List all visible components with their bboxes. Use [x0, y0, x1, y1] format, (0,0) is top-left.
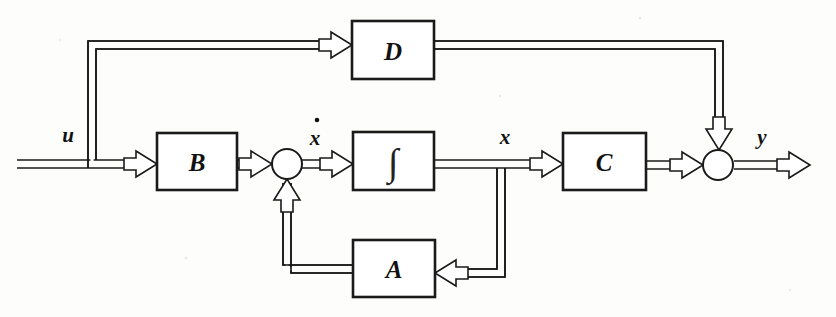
- block-diagram-canvas: D B ∫ C A u x x y: [0, 0, 836, 317]
- block-d-label: D: [383, 38, 402, 65]
- arrowhead-into-sum-output-left: [670, 152, 703, 178]
- arrowhead-into-b: [124, 151, 157, 177]
- block-b-label: B: [188, 149, 206, 176]
- arrowhead-into-sum-state-bottom: [274, 179, 300, 212]
- signal-label-y: y: [754, 125, 767, 149]
- wire-d-to-sum-output: [434, 41, 723, 143]
- block-a-label: A: [384, 256, 403, 283]
- arrowhead-into-sum-output-top: [706, 117, 732, 150]
- state-space-diagram: D B ∫ C A u x x y: [0, 0, 836, 317]
- block-d[interactable]: D: [352, 21, 434, 79]
- block-c-label: C: [596, 149, 613, 176]
- arrowhead-into-integrator: [320, 151, 353, 177]
- signal-label-xdot: x: [309, 126, 321, 150]
- signal-label-x: x: [499, 125, 511, 149]
- arrowhead-into-a: [435, 260, 468, 286]
- summing-junction-output[interactable]: [703, 150, 733, 180]
- signal-label-xdot-group: x: [309, 118, 321, 150]
- block-integrator[interactable]: ∫: [353, 132, 434, 190]
- arrowhead-y-output: [777, 152, 810, 178]
- derivative-dot-icon: [315, 118, 320, 123]
- arrowhead-into-d: [319, 32, 352, 58]
- summing-junction-state[interactable]: [272, 149, 302, 179]
- block-b[interactable]: B: [157, 133, 237, 190]
- block-c[interactable]: C: [563, 133, 646, 190]
- block-a[interactable]: A: [353, 240, 435, 297]
- arrowhead-into-c: [530, 151, 563, 177]
- signal-label-u: u: [62, 123, 74, 147]
- arrowhead-into-sum-state-left: [239, 151, 272, 177]
